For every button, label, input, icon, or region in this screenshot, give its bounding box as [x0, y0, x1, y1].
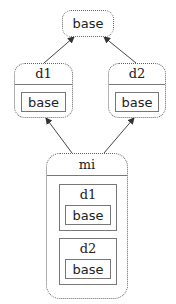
- node-mi-sub-d1-base-label: base: [73, 208, 104, 223]
- node-d1-label: d1: [15, 66, 72, 81]
- node-mi-label: mi: [47, 157, 127, 172]
- node-mi-sub-d1-base: base: [65, 205, 111, 225]
- node-d2-label: d2: [109, 66, 165, 81]
- node-base-label: base: [73, 16, 104, 31]
- arrow-mi-to-d2: [104, 118, 134, 153]
- node-mi-sub-d2-base: base: [65, 259, 111, 279]
- arrow-mi-to-d1: [46, 118, 72, 153]
- node-d1-divider: [15, 84, 72, 85]
- node-d2-divider: [109, 84, 165, 85]
- node-d1-inner-base: base: [21, 92, 66, 112]
- node-mi-sub-d2: d2 base: [59, 238, 117, 285]
- node-mi-sub-d1-label: d1: [60, 187, 116, 202]
- node-d1: d1 base: [14, 63, 73, 118]
- node-d2: d2 base: [108, 63, 166, 118]
- arrow-d1-to-base: [44, 37, 74, 63]
- node-mi-divider: [47, 175, 127, 176]
- node-mi-sub-d2-label: d2: [60, 241, 116, 256]
- node-d1-inner-base-label: base: [28, 95, 59, 110]
- node-d2-inner-base-label: base: [122, 95, 153, 110]
- node-base: base: [62, 10, 114, 37]
- node-mi-sub-d1: d1 base: [59, 184, 117, 231]
- arrow-d2-to-base: [104, 37, 136, 63]
- node-mi-sub-d2-base-label: base: [73, 262, 104, 277]
- node-mi: mi d1 base d2 base: [46, 153, 128, 299]
- node-d2-inner-base: base: [115, 92, 159, 112]
